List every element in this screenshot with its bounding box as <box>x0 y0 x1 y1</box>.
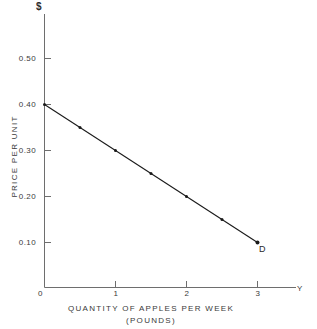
demand-curve-label: D <box>259 244 266 254</box>
x-tick-label-1: 1 <box>106 289 126 298</box>
demand-curve-chart: $ 0.50 0.40 0.30 0.20 0.10 1 2 3 0 Y PRI… <box>0 0 317 329</box>
x-tick-label-2: 2 <box>177 289 197 298</box>
x-axis-end-label: Y <box>297 284 303 293</box>
y-tick-label-0-40: 0.40 <box>4 100 36 109</box>
x-axis-title-units: (POUNDS) <box>44 315 258 327</box>
origin-label: 0 <box>38 289 43 298</box>
y-axis-title: PRICE PER UNIT <box>10 112 19 202</box>
x-axis-title: QUANTITY OF APPLES PER WEEK (POUNDS) <box>44 303 258 327</box>
x-axis-ticks <box>116 281 258 288</box>
y-axis-ticks <box>45 59 52 243</box>
x-axis-title-main: QUANTITY OF APPLES PER WEEK <box>44 303 258 315</box>
y-tick-label-0-10: 0.10 <box>4 238 36 247</box>
y-axis-unit-symbol: $ <box>36 1 42 12</box>
plot-area <box>0 0 317 329</box>
x-tick-label-3: 3 <box>248 289 268 298</box>
y-tick-label-0-50: 0.50 <box>4 54 36 63</box>
